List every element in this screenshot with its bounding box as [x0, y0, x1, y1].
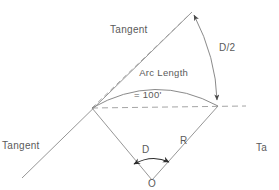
deflection-half-label: D/2: [219, 42, 235, 54]
radius-label: R: [180, 135, 188, 147]
horizontal-curve-diagram: Tangent Tangent Ta Arc Length = 100' D/2…: [0, 0, 279, 190]
central-angle-arc: [134, 158, 169, 164]
deflection-angle-arc: [194, 15, 217, 100]
arc-length-annotation: Arc Length = 100': [128, 57, 188, 123]
tangent-label-left: Tangent: [2, 140, 40, 152]
center-point-label: O: [148, 178, 156, 190]
central-angle-label: D: [142, 144, 150, 156]
tangent-label-top: Tangent: [110, 24, 148, 36]
arc-length-line1: Arc Length: [139, 67, 188, 78]
tangent-label-right-clipped: Ta: [256, 142, 267, 154]
arc-length-line2: = 100': [128, 90, 188, 101]
